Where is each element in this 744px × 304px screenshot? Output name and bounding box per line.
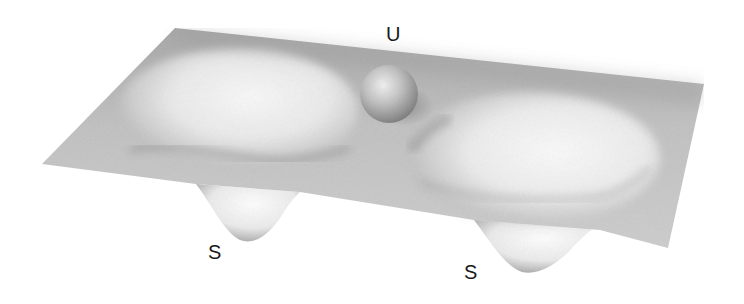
- unstable-ball: [360, 65, 418, 123]
- potential-plane: [42, 28, 704, 248]
- label-stable-left: S: [208, 242, 221, 262]
- double-well-surface-diagram: [0, 0, 744, 304]
- label-stable-right: S: [464, 262, 477, 282]
- label-unstable: U: [386, 24, 400, 44]
- left-well-underside: [196, 184, 300, 241]
